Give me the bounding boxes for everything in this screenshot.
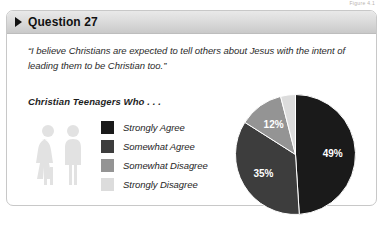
quote-line-2: leading them to be Christian too.” [28,59,353,74]
two-people-icon [33,123,87,189]
pie-slice-value-label: 35% [253,168,273,179]
quote-block: “I believe Christians are expected to te… [28,44,353,73]
legend-label-somewhat-agree: Somewhat Agree [123,141,195,152]
legend-label-strongly-agree: Strongly Agree [123,122,185,133]
legend-swatch-somewhat-agree [101,140,114,153]
pie-slice-value-label: 49% [323,148,343,159]
legend-label-somewhat-disagree: Somewhat Disagree [123,160,208,171]
chart-legend: Strongly Agree Somewhat Agree Somewhat D… [101,118,231,194]
legend-label-strongly-disagree: Strongly Disagree [123,179,198,190]
triangle-right-icon [15,17,22,27]
pie-slice-value-label: 12% [264,119,284,130]
pie-chart: 49%35%12%4% [233,92,358,217]
card-header: Question 27 [7,11,376,34]
two-people-icon-svg [33,123,87,189]
legend-item-somewhat-agree: Somewhat Agree [101,137,231,156]
legend-item-somewhat-disagree: Somewhat Disagree [101,156,231,175]
legend-swatch-somewhat-disagree [101,159,114,172]
chart-subheading: Christian Teenagers Who . . . [28,96,161,107]
page-title: Question 27 [28,15,98,29]
legend-swatch-strongly-agree [101,121,114,134]
legend-item-strongly-agree: Strongly Agree [101,118,231,137]
legend-swatch-strongly-disagree [101,178,114,191]
quote-line-1: “I believe Christians are expected to te… [28,44,353,59]
figure-caption: Figure 4.1 [349,0,375,6]
legend-item-strongly-disagree: Strongly Disagree [101,175,231,194]
pie-chart-svg: 49%35%12%4% [233,92,358,217]
